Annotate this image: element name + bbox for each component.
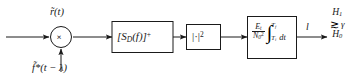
- filter-text-close: (f)]: [132, 30, 147, 42]
- filter-superscript: +: [147, 30, 151, 39]
- integral-upper-limit: Tf: [271, 22, 276, 29]
- input-signal-label: r̃(t): [50, 7, 64, 18]
- threshold-gamma: γ: [341, 20, 345, 29]
- integral-limits: Tf Ti: [271, 22, 276, 42]
- magnitude-squared-label: |·|2: [192, 31, 204, 42]
- numerator-subscript: t: [260, 25, 262, 31]
- multiply-icon: ×: [57, 33, 62, 42]
- energy-noise-fraction: Et N02: [252, 23, 265, 42]
- magnitude-exponent: 2: [200, 30, 204, 39]
- hypothesis-test-label: H1 ≳ γ H0: [330, 8, 345, 40]
- block-diagram: r̃(t) f̃*(t − λ) × [SD(f)]+ |·|2 Et N02 …: [0, 0, 359, 80]
- lower-limit-subscript: i: [275, 37, 276, 42]
- differential-dt: dt: [279, 33, 286, 43]
- hypothesis-h0: H0: [332, 30, 342, 40]
- fraction-denominator: N02: [252, 31, 265, 41]
- denominator-exponent: 2: [261, 31, 264, 37]
- filter-text-open: [S: [117, 30, 127, 42]
- spectrum-filter-label: [SD(f)]+: [117, 31, 151, 43]
- hypothesis-h1: H1: [332, 8, 342, 18]
- upper-limit-subscript: f: [275, 24, 276, 29]
- reference-signal-label: f̃*(t − λ): [32, 63, 67, 74]
- h1-subscript: 1: [339, 10, 342, 17]
- integral-expression: ∫ Tf Ti: [267, 22, 276, 42]
- integrator-expression: Et N02 ∫ Tf Ti dt: [252, 22, 286, 42]
- magnitude-text: |·|: [192, 30, 200, 42]
- integral-lower-limit: Ti: [271, 35, 276, 42]
- h0-subscript: 0: [339, 33, 342, 40]
- output-statistic-label: l: [306, 22, 309, 32]
- fraction-numerator: Et: [254, 23, 262, 32]
